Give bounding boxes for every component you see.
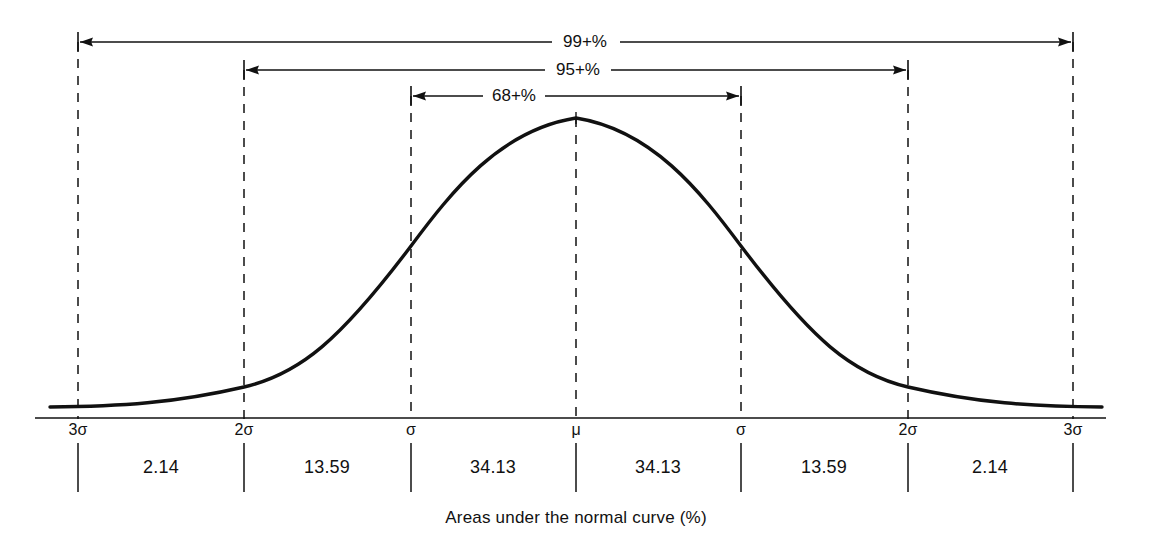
axis-tick-label-neg-1sigma: σ xyxy=(406,422,416,438)
axis-tick-label-pos-2sigma: 2σ xyxy=(899,422,918,438)
span-label-95: 95+% xyxy=(551,60,605,80)
span-label-99: 99+% xyxy=(558,32,612,52)
area-value-neg3-to-neg2: 2.14 xyxy=(143,457,179,478)
area-value-neg1-to-mu: 34.13 xyxy=(470,457,516,478)
axis-tick-label-pos-1sigma: σ xyxy=(736,422,746,438)
axis-tick-label-mu: μ xyxy=(571,422,580,438)
span-arrow-68 xyxy=(411,86,741,106)
axis-tick-label-pos-3sigma: 3σ xyxy=(1064,422,1083,438)
axis-tick-label-neg-3sigma: 3σ xyxy=(69,422,88,438)
area-value-pos2-to-pos3: 2.14 xyxy=(972,457,1008,478)
normal-curve-figure: 99+% 95+% 68+% 3σ 2σ σ μ σ 2σ 3σ 2.14 13… xyxy=(0,0,1161,558)
area-value-neg2-to-neg1: 13.59 xyxy=(304,457,350,478)
span-label-68: 68+% xyxy=(487,86,541,106)
area-value-mu-to-pos1: 34.13 xyxy=(635,457,681,478)
axis-tick-label-neg-2sigma: 2σ xyxy=(235,422,254,438)
area-value-pos1-to-pos2: 13.59 xyxy=(801,457,847,478)
figure-caption: Areas under the normal curve (%) xyxy=(445,508,707,528)
